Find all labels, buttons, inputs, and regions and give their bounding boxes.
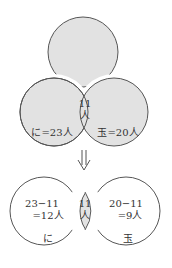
bottom-intersection-count: 11 xyxy=(79,198,92,209)
top-intersection-count: 11 xyxy=(79,98,92,109)
right-only-name: 玉 xyxy=(123,233,133,244)
left-set-label: に=23人 xyxy=(31,127,72,138)
top-intersection-unit: 人 xyxy=(80,110,90,121)
right-only-formula: 20−11 xyxy=(109,198,143,209)
right-only-result: =9人 xyxy=(118,210,143,221)
venn-diagram-canvas: 11 人 に=23人 玉=20人 23−11 =12人 に 11 人 20−11… xyxy=(0,0,172,268)
universal-set-shape xyxy=(48,17,118,87)
right-set-label: 玉=20人 xyxy=(97,127,138,138)
left-only-formula: 23−11 xyxy=(25,198,59,209)
down-double-arrow-icon xyxy=(78,150,90,170)
left-only-name: に xyxy=(43,233,53,244)
bottom-intersection-unit: 人 xyxy=(80,210,90,221)
left-only-result: =12人 xyxy=(32,210,63,221)
